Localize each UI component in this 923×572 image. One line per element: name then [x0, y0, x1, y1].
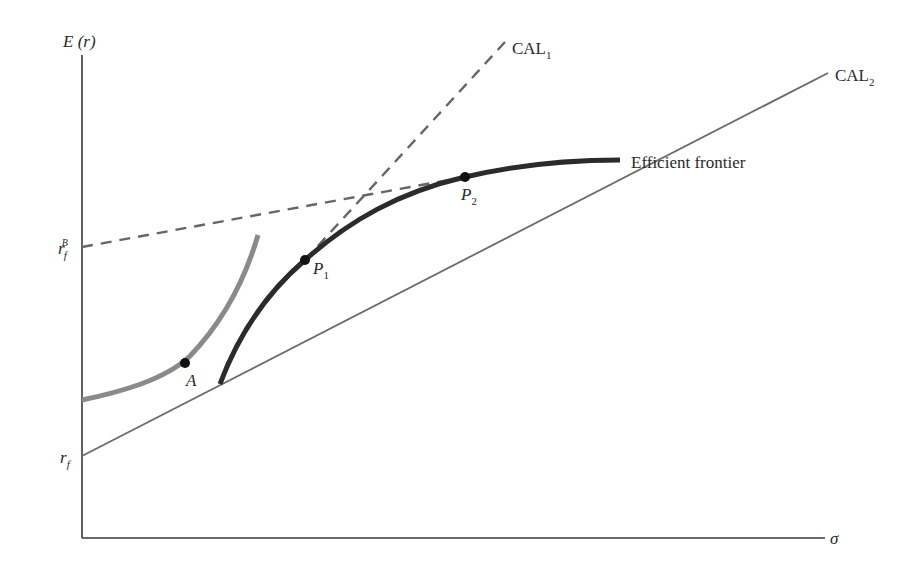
point-p2-marker — [460, 172, 470, 182]
point-p1-marker — [300, 255, 310, 265]
rf-base: r — [60, 448, 67, 467]
point-p2-label: P2 — [461, 186, 477, 203]
p1-sub: 1 — [323, 269, 329, 281]
y-axis-label: E (r) — [63, 33, 96, 50]
p2-sub: 2 — [471, 195, 477, 207]
cal2-line — [82, 73, 828, 456]
rf-borrow-sup: B — [62, 237, 68, 248]
point-a-label: A — [186, 372, 196, 389]
point-p1-label: P1 — [313, 260, 329, 277]
efficient-frontier-curve — [220, 160, 620, 384]
cal2-base: CAL — [835, 66, 869, 85]
p1-base: P — [313, 259, 323, 278]
cal1-line — [305, 42, 505, 260]
rf-label: rf — [60, 449, 70, 466]
indifference-curve — [82, 235, 258, 400]
cal1-label: CAL1 — [512, 40, 552, 57]
cal1-sub: 1 — [546, 49, 552, 61]
cal1-base: CAL — [512, 39, 546, 58]
p2-base: P — [461, 185, 471, 204]
borrowing-line — [82, 177, 465, 247]
rf-sub: f — [67, 458, 70, 470]
efficient-frontier-label: Efficient frontier — [631, 154, 745, 171]
rf-borrow-label: rfB — [58, 240, 68, 257]
cal2-sub: 2 — [869, 76, 875, 88]
x-axis-label: σ — [830, 530, 838, 547]
diagram-canvas — [0, 0, 923, 572]
point-a-marker — [180, 358, 190, 368]
cal2-label: CAL2 — [835, 67, 875, 84]
rf-borrow-sub: f — [64, 249, 67, 261]
